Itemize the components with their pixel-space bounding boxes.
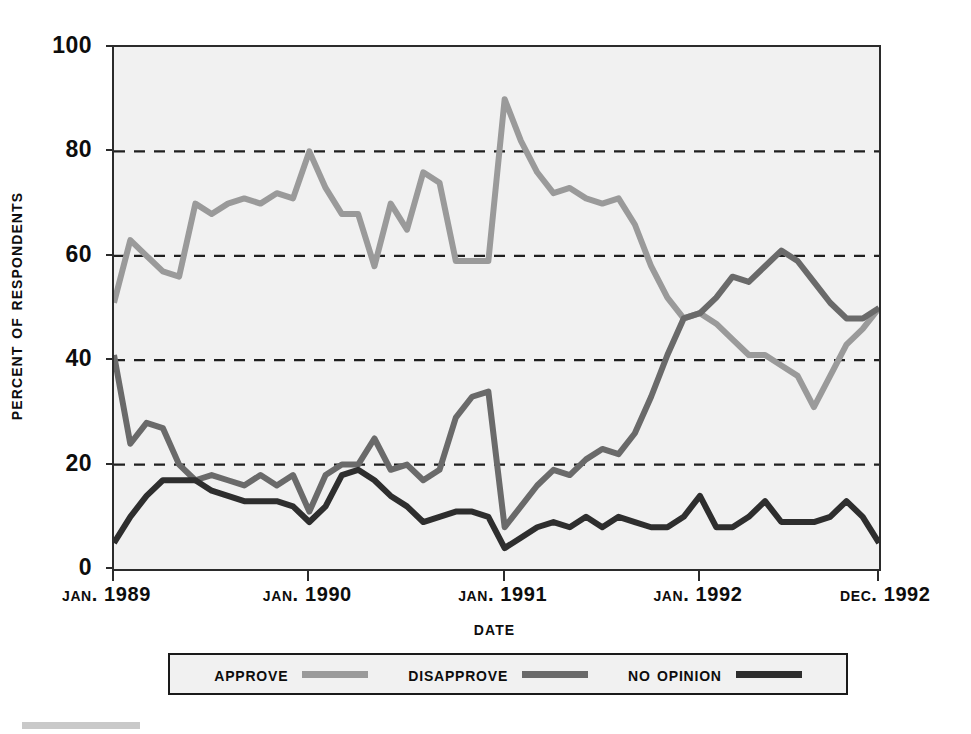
x-axis-title: Date bbox=[112, 617, 877, 640]
scan-edge-artifact bbox=[22, 722, 140, 729]
x-tick-mark bbox=[307, 569, 309, 581]
x-tick-label: Jan. 1991 bbox=[458, 583, 547, 606]
y-tick-label: 0 bbox=[30, 554, 92, 581]
series-line-disapprove bbox=[114, 251, 879, 528]
x-tick-mark bbox=[877, 569, 879, 581]
y-axis-label-container: Percent of Respondents bbox=[0, 45, 34, 567]
y-tick-label: 100 bbox=[30, 32, 92, 59]
approval-rating-line-chart: Percent of Respondents 100806040200 Jan.… bbox=[0, 0, 971, 734]
legend-item: Disapprove bbox=[388, 663, 608, 686]
y-tick-label: 80 bbox=[30, 136, 92, 163]
chart-canvas bbox=[114, 47, 879, 569]
legend-label: Approve bbox=[214, 663, 288, 686]
x-tick-mark bbox=[698, 569, 700, 581]
legend-color-swatch bbox=[522, 671, 588, 678]
legend-item: No opinion bbox=[608, 663, 822, 686]
y-tick-label: 40 bbox=[30, 345, 92, 372]
x-tick-label: Jan. 1992 bbox=[653, 583, 742, 606]
y-axis-title: Percent of Respondents bbox=[4, 192, 27, 420]
x-tick-mark bbox=[112, 569, 114, 581]
x-tick-label: Dec. 1992 bbox=[840, 583, 931, 606]
x-tick-label: Jan. 1990 bbox=[263, 583, 352, 606]
legend-color-swatch bbox=[302, 671, 368, 678]
y-tick-label: 20 bbox=[30, 449, 92, 476]
y-tick-label: 60 bbox=[30, 240, 92, 267]
legend-label: Disapprove bbox=[408, 663, 508, 686]
legend-label: No opinion bbox=[628, 663, 722, 686]
x-tick-mark bbox=[503, 569, 505, 581]
chart-legend: ApproveDisapproveNo opinion bbox=[168, 653, 848, 695]
plot-area bbox=[112, 45, 881, 571]
x-tick-label: Jan. 1989 bbox=[62, 583, 151, 606]
data-series-layer bbox=[114, 99, 879, 548]
legend-color-swatch bbox=[736, 671, 802, 678]
legend-item: Approve bbox=[194, 663, 388, 686]
